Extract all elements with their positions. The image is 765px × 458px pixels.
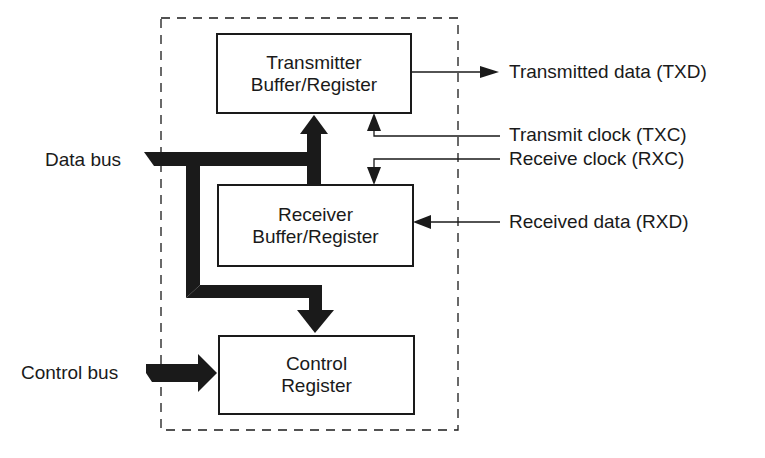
arrow-left-icon	[413, 215, 431, 229]
block-title-line2: Register	[281, 375, 352, 397]
arrow-down-icon	[297, 310, 334, 333]
block-title-line2: Buffer/Register	[251, 74, 377, 96]
rxc-line	[374, 159, 500, 170]
arrow-up-small-icon	[367, 113, 381, 131]
txd-label: Transmitted data (TXD)	[509, 61, 707, 83]
txc-label: Transmit clock (TXC)	[509, 124, 687, 146]
arrow-down-small-icon	[367, 167, 381, 185]
data-bus-vertical	[186, 166, 200, 298]
control-bus-label: Control bus	[21, 362, 118, 384]
block-title-line1: Receiver	[278, 204, 353, 226]
arrow-up-icon	[300, 115, 328, 134]
block-title-line2: Buffer/Register	[252, 226, 378, 248]
data-bus-bend	[186, 285, 322, 298]
receiver-buffer-register-block: Receiver Buffer/Register	[217, 184, 414, 267]
block-title-line1: Control	[286, 353, 347, 375]
transmitter-buffer-register-block: Transmitter Buffer/Register	[216, 33, 412, 114]
data-bus-bar	[144, 152, 313, 166]
control-register-block: Control Register	[218, 335, 415, 415]
rxc-label: Receive clock (RXC)	[509, 148, 684, 170]
data-bus-to-receiver-shaft	[307, 130, 321, 184]
block-title-line1: Transmitter	[266, 52, 361, 74]
txc-line	[374, 124, 500, 136]
arrow-right-icon	[480, 66, 499, 78]
data-bus-label: Data bus	[45, 149, 121, 171]
data-bus-to-control-shaft	[309, 285, 322, 312]
control-bus-arrow	[146, 354, 217, 392]
rxd-label: Received data (RXD)	[509, 211, 689, 233]
